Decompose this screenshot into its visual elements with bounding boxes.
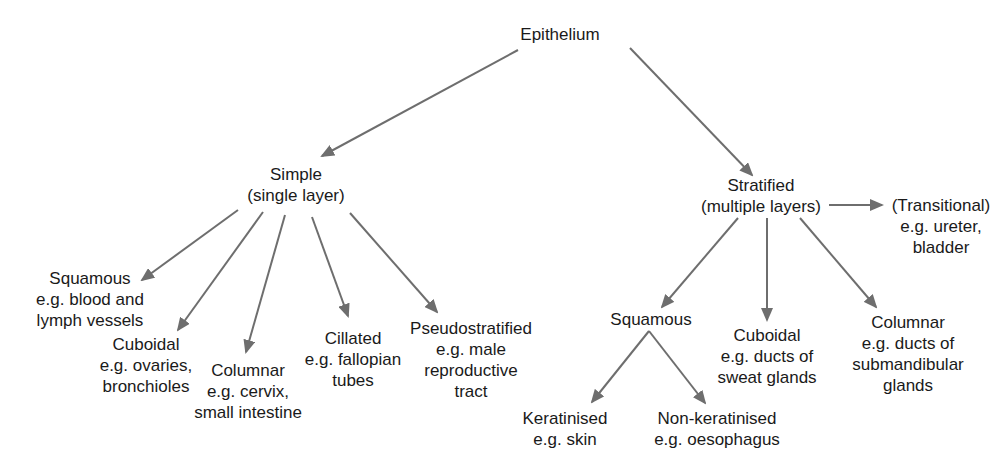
node-example: e.g. cervix, bbox=[194, 381, 302, 402]
node-sublabel: (single layer) bbox=[247, 185, 344, 206]
node-stratified-squamous: Squamous bbox=[610, 309, 691, 330]
arrow-simple-to-cuboidal bbox=[178, 212, 263, 330]
node-example: e.g. ducts of bbox=[852, 333, 964, 354]
node-simple-cuboidal: Cuboidal e.g. ovaries, bronchioles bbox=[100, 334, 193, 397]
node-label: Keratinised bbox=[522, 408, 607, 429]
node-label: Squamous bbox=[36, 268, 144, 289]
node-example: e.g. male bbox=[410, 339, 532, 360]
arrow-simple-to-cillated bbox=[312, 217, 348, 316]
node-simple-pseudostratified: Pseudostratified e.g. male reproductive … bbox=[410, 318, 532, 402]
node-example: small intestine bbox=[194, 402, 302, 423]
node-example: bronchioles bbox=[100, 376, 193, 397]
arrow-root-to-simple bbox=[322, 50, 518, 156]
node-example: e.g. ureter, bbox=[892, 216, 991, 237]
epithelium-classification-diagram: Epithelium Simple (single layer) Stratif… bbox=[0, 0, 1004, 471]
node-example: lymph vessels bbox=[36, 310, 144, 331]
node-label: Cuboidal bbox=[100, 334, 193, 355]
node-example: glands bbox=[852, 375, 964, 396]
node-keratinised: Keratinised e.g. skin bbox=[522, 408, 607, 450]
node-example: e.g. ducts of bbox=[717, 346, 816, 367]
node-label: Cillated bbox=[305, 328, 401, 349]
arrow-simple-to-squamous bbox=[142, 210, 238, 280]
node-simple: Simple (single layer) bbox=[247, 164, 344, 206]
node-label: Cuboidal bbox=[717, 325, 816, 346]
node-label: Squamous bbox=[610, 309, 691, 330]
node-simple-squamous: Squamous e.g. blood and lymph vessels bbox=[36, 268, 144, 331]
node-epithelium: Epithelium bbox=[520, 24, 599, 45]
arrow-simple-to-columnar bbox=[246, 215, 285, 352]
arrow-simple-to-pseudostratified bbox=[350, 213, 437, 312]
node-label: Pseudostratified bbox=[410, 318, 532, 339]
node-example: submandibular bbox=[852, 354, 964, 375]
node-simple-cillated: Cillated e.g. fallopian tubes bbox=[305, 328, 401, 391]
arrow-root-to-stratified bbox=[630, 48, 752, 175]
node-label: Columnar bbox=[852, 312, 964, 333]
node-example: tract bbox=[410, 381, 532, 402]
node-non-keratinised: Non-keratinised e.g. oesophagus bbox=[654, 408, 780, 450]
arrow-stratified-to-columnar bbox=[800, 218, 876, 307]
node-example: e.g. skin bbox=[522, 429, 607, 450]
node-stratified-columnar: Columnar e.g. ducts of submandibular gla… bbox=[852, 312, 964, 396]
arrow-stratified-to-squamous bbox=[662, 218, 738, 307]
node-example: tubes bbox=[305, 370, 401, 391]
node-stratified-cuboidal: Cuboidal e.g. ducts of sweat glands bbox=[717, 325, 816, 388]
node-example: e.g. ovaries, bbox=[100, 355, 193, 376]
arrow-squamous-to-keratinised bbox=[592, 331, 649, 402]
node-stratified: Stratified (multiple layers) bbox=[701, 175, 821, 217]
node-label: (Transitional) bbox=[892, 195, 991, 216]
node-example: e.g. fallopian bbox=[305, 349, 401, 370]
node-example: reproductive bbox=[410, 360, 532, 381]
node-label: Columnar bbox=[194, 360, 302, 381]
node-example: e.g. oesophagus bbox=[654, 429, 780, 450]
node-example: sweat glands bbox=[717, 367, 816, 388]
node-simple-columnar: Columnar e.g. cervix, small intestine bbox=[194, 360, 302, 423]
node-example: e.g. blood and bbox=[36, 289, 144, 310]
node-example: bladder bbox=[892, 237, 991, 258]
node-label: Simple bbox=[247, 164, 344, 185]
arrow-squamous-to-non-keratinised bbox=[649, 331, 705, 403]
node-label: Epithelium bbox=[520, 24, 599, 45]
node-sublabel: (multiple layers) bbox=[701, 196, 821, 217]
node-label: Stratified bbox=[701, 175, 821, 196]
node-label: Non-keratinised bbox=[654, 408, 780, 429]
node-transitional: (Transitional) e.g. ureter, bladder bbox=[892, 195, 991, 258]
